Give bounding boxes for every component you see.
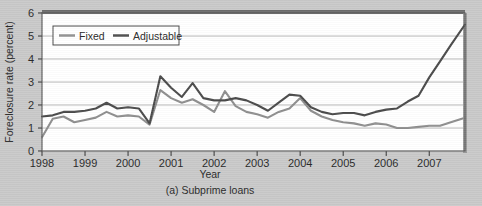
x-tick-label-2000: 2000 xyxy=(116,157,140,169)
y-tick-label-6: 6 xyxy=(28,7,34,19)
x-tick-label-1999: 1999 xyxy=(73,157,97,169)
chart-canvas: 0123456 19981999200020012002200320042005… xyxy=(0,0,482,206)
y-tick-label-0: 0 xyxy=(28,145,34,157)
x-tick-label-2004: 2004 xyxy=(288,157,312,169)
x-tick-label-2001: 2001 xyxy=(159,157,183,169)
y-tick-label-4: 4 xyxy=(28,53,34,65)
legend-label-adjustable: Adjustable xyxy=(133,30,182,42)
y-tick-label-5: 5 xyxy=(28,30,34,42)
y-tick-label-3: 3 xyxy=(28,76,34,88)
figure-subprime-foreclosure-chart: 0123456 19981999200020012002200320042005… xyxy=(0,0,482,206)
x-tick-label-1998: 1998 xyxy=(30,157,54,169)
x-tick-label-2006: 2006 xyxy=(374,157,398,169)
x-tick-label-2007: 2007 xyxy=(417,157,441,169)
x-tick-label-2003: 2003 xyxy=(245,157,269,169)
y-tick-label-1: 1 xyxy=(28,122,34,134)
y-axis-label: Foreclosure rate (percent) xyxy=(3,21,15,142)
x-tick-label-2005: 2005 xyxy=(331,157,355,169)
figure-caption: (a) Subprime loans xyxy=(166,184,255,196)
y-tick-label-2: 2 xyxy=(28,99,34,111)
legend-label-fixed: Fixed xyxy=(79,30,105,42)
chart-legend: Fixed Adjustable xyxy=(53,26,182,45)
x-axis-label: Year xyxy=(199,168,221,180)
